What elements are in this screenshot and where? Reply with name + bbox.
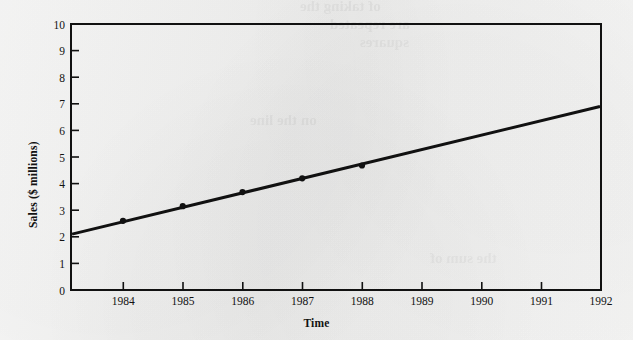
- x-axis-tick-labels: 1984 1985 1986 1987 1988 1989 1990 1991 …: [112, 295, 613, 307]
- chart-canvas: 10 9 8 7 6 5 4 3 2 1 0 1984 1985: [0, 0, 633, 340]
- sales-over-time-line-chart: 10 9 8 7 6 5 4 3 2 1 0 1984 1985: [0, 0, 633, 340]
- y-tick-label: 5: [59, 152, 65, 164]
- x-tick-label: 1986: [231, 295, 254, 307]
- x-tick-label: 1991: [530, 295, 553, 307]
- data-point-1986: [239, 189, 245, 195]
- x-tick-label: 1985: [172, 295, 195, 307]
- y-axis-ticks: [71, 24, 79, 290]
- x-axis-title: Time: [0, 317, 633, 329]
- data-point-1985: [180, 203, 186, 209]
- y-tick-label: 3: [59, 205, 65, 217]
- y-tick-label: 4: [59, 178, 65, 190]
- y-tick-label: 6: [59, 125, 65, 137]
- y-tick-label: 0: [59, 285, 65, 297]
- data-point-1984: [120, 218, 126, 224]
- y-tick-label: 7: [59, 98, 65, 110]
- y-tick-label: 9: [59, 45, 65, 57]
- y-axis-tick-labels: 10 9 8 7 6 5 4 3 2 1 0: [54, 19, 66, 297]
- y-axis-title: Sales ($ millions): [27, 141, 39, 228]
- x-tick-label: 1984: [112, 295, 135, 307]
- y-tick-label: 2: [59, 231, 65, 243]
- data-point-1988: [359, 162, 365, 168]
- x-tick-label: 1990: [470, 295, 493, 307]
- y-tick-label: 8: [59, 72, 65, 84]
- x-axis-ticks: [123, 282, 601, 290]
- x-tick-label: 1988: [351, 295, 374, 307]
- data-point-1987: [299, 175, 305, 181]
- sales-trend-line: [72, 106, 600, 234]
- x-tick-label: 1992: [590, 295, 613, 307]
- x-tick-label: 1987: [291, 295, 314, 307]
- x-tick-label: 1989: [411, 295, 434, 307]
- y-tick-label: 10: [54, 19, 66, 31]
- plot-frame: [71, 24, 601, 290]
- y-tick-label: 1: [59, 258, 65, 270]
